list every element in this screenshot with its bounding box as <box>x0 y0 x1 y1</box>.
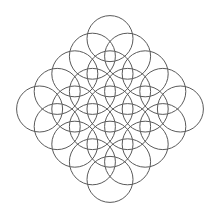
lattice-circle <box>87 86 133 132</box>
lattice-circle <box>122 86 168 132</box>
lattice-circle <box>34 104 80 150</box>
lattice-circle <box>87 51 133 97</box>
lattice-circle <box>87 121 133 167</box>
lattice-circle <box>105 104 151 150</box>
lattice-circle <box>34 68 80 114</box>
lattice-circle <box>52 121 98 167</box>
lattice-circle <box>105 68 151 114</box>
lattice-circle <box>122 51 168 97</box>
lattice-circle <box>69 139 115 185</box>
circle-group <box>17 16 204 203</box>
lattice-circle <box>69 33 115 79</box>
lattice-circle <box>52 51 98 97</box>
lattice-circle <box>157 86 203 132</box>
lattice-circle <box>140 104 186 150</box>
lattice-circle <box>140 68 186 114</box>
lattice-circle <box>87 16 133 62</box>
circle-lattice-diagram <box>0 0 219 218</box>
lattice-circle <box>87 156 133 202</box>
lattice-circle <box>17 86 63 132</box>
lattice-circle <box>105 139 151 185</box>
lattice-circle <box>69 68 115 114</box>
lattice-circle <box>52 86 98 132</box>
lattice-circle <box>69 104 115 150</box>
lattice-circle <box>122 121 168 167</box>
lattice-circle <box>105 33 151 79</box>
